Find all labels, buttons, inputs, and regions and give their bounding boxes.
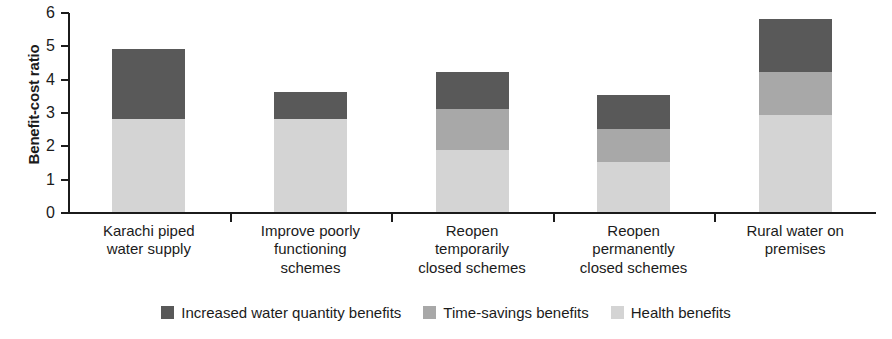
bar-segment[interactable] [436,150,509,212]
stacked-bar-chart: Benefit-cost ratio 0123456 Karachi piped… [0,0,892,339]
legend-swatch-icon [161,306,174,319]
x-axis-tick [230,214,232,222]
legend-swatch-icon [423,306,436,319]
plot-area: 0123456 [68,13,876,213]
y-axis-tick [61,12,69,14]
bar-segment[interactable] [597,129,670,162]
x-axis-category-label: Reopenpermanentlyclosed schemes [553,222,715,277]
category-label-line: water supply [68,240,230,258]
bar-segment[interactable] [274,92,347,119]
y-axis-tick [61,145,69,147]
legend-label: Time-savings benefits [443,305,588,320]
category-label-line: closed schemes [553,259,715,277]
bar-segment[interactable] [597,95,670,128]
legend-swatch-icon [611,306,624,319]
y-axis-tick [61,112,69,114]
x-axis-line [68,212,876,214]
category-label-line: temporarily [391,240,553,258]
category-label-line: Reopen [391,222,553,240]
y-axis-title: Benefit-cost ratio [25,0,42,210]
category-label-line: premises [714,240,876,258]
x-axis-category-label: Improve poorlyfunctioningschemes [230,222,392,277]
legend-item[interactable]: Health benefits [611,305,731,320]
category-label-line: schemes [230,259,392,277]
bar-segment[interactable] [436,109,509,151]
bar-segment[interactable] [274,119,347,212]
y-axis-tick [61,212,69,214]
category-label-line: permanently [553,240,715,258]
category-label-line: closed schemes [391,259,553,277]
x-axis-category-label: Rural water onpremises [714,222,876,259]
category-label-line: Karachi piped [68,222,230,240]
y-axis-tick [61,45,69,47]
chart-legend: Increased water quantity benefitsTime-sa… [0,305,892,320]
x-axis-category-label: Karachi pipedwater supply [68,222,230,259]
x-axis-tick [391,214,393,222]
legend-label: Health benefits [631,305,731,320]
y-axis-tick-label: 6 [46,5,55,21]
y-axis-tick [61,79,69,81]
x-axis-category-labels: Karachi pipedwater supplyImprove poorlyf… [68,222,876,298]
category-label-line: Reopen [553,222,715,240]
bar-segment[interactable] [112,119,185,212]
bar-segment[interactable] [759,115,832,212]
bar-stack[interactable] [274,92,347,212]
bar-stack[interactable] [597,95,670,212]
legend-label: Increased water quantity benefits [181,305,401,320]
y-axis-tick-label: 5 [46,38,55,54]
y-axis-tick-label: 1 [46,172,55,188]
bar-stack[interactable] [759,19,832,212]
category-label-line: functioning [230,240,392,258]
legend-item[interactable]: Time-savings benefits [423,305,588,320]
y-axis-tick-label: 4 [46,72,55,88]
x-axis-tick [553,214,555,222]
y-axis-tick-label: 3 [46,105,55,121]
bar-segment[interactable] [759,19,832,72]
bar-stack[interactable] [436,72,509,212]
legend-item[interactable]: Increased water quantity benefits [161,305,401,320]
category-label-line: Rural water on [714,222,876,240]
bar-stack[interactable] [112,49,185,212]
y-axis-tick [61,179,69,181]
bar-segment[interactable] [597,162,670,212]
bar-segment[interactable] [112,49,185,119]
x-axis-tick [714,214,716,222]
y-axis-tick-label: 2 [46,138,55,154]
x-axis-category-label: Reopentemporarilyclosed schemes [391,222,553,277]
bar-segment[interactable] [436,72,509,109]
bar-segment[interactable] [759,72,832,115]
category-label-line: Improve poorly [230,222,392,240]
y-axis-tick-label: 0 [46,205,55,221]
